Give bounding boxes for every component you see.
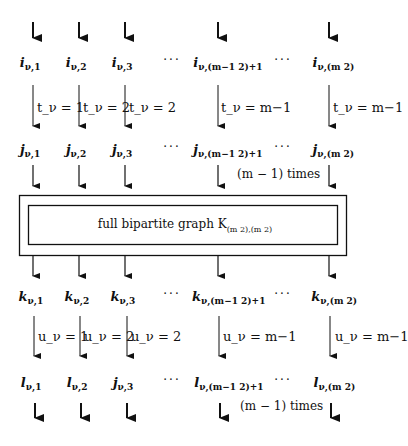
ellipsis: ··· bbox=[274, 141, 291, 153]
t-edge-label-3: t_ν = 2 bbox=[129, 101, 176, 114]
ellipsis: ··· bbox=[274, 54, 291, 66]
bipartite-box-label: full bipartite graph K(m 2),(m 2) bbox=[98, 218, 272, 234]
node-i-mid: iν,(m−1 2)+1 bbox=[193, 56, 262, 72]
node-j-last: jν,(m 2) bbox=[313, 143, 355, 159]
ellipsis: ··· bbox=[163, 54, 180, 66]
u-edge-label-mid: u_ν = m−1 bbox=[223, 330, 296, 343]
times-label-lower: (m − 1) times bbox=[240, 400, 323, 412]
ellipsis: ··· bbox=[163, 288, 180, 300]
u-edge-label-last: u_ν = m−1 bbox=[335, 330, 408, 343]
node-l-1: lν,1 bbox=[21, 376, 42, 392]
node-l-3: jν,3 bbox=[113, 376, 133, 392]
node-k-1: kν,1 bbox=[19, 290, 44, 306]
node-j-mid: jν,(m−1 2)+1 bbox=[193, 143, 262, 159]
ellipsis: ··· bbox=[274, 374, 291, 386]
node-j-2: jν,2 bbox=[66, 143, 86, 159]
u-edge-label-3: u_ν = 2 bbox=[131, 330, 181, 343]
top-arrows bbox=[33, 22, 329, 38]
ellipsis: ··· bbox=[163, 141, 180, 153]
t-edge-label-2: t_ν = 2 bbox=[83, 101, 130, 114]
node-l-mid: lν,(m−1 2)+1 bbox=[194, 376, 263, 392]
t-edge-label-last: t_ν = m−1 bbox=[333, 101, 403, 114]
node-k-mid: kν,(m−1 2)+1 bbox=[192, 290, 265, 306]
u-edge-label-2: u_ν = 2 bbox=[84, 330, 134, 343]
u-edge-label-1: u_ν = 1 bbox=[38, 330, 88, 343]
t-edge-label-mid: t_ν = m−1 bbox=[221, 101, 291, 114]
ellipsis: ··· bbox=[163, 374, 180, 386]
node-i-3: iν,3 bbox=[112, 56, 133, 72]
ellipsis: ··· bbox=[274, 288, 291, 300]
node-i-last: iν,(m 2) bbox=[312, 56, 354, 72]
node-l-2: lν,2 bbox=[67, 376, 88, 392]
node-k-2: kν,2 bbox=[65, 290, 90, 306]
times-label-upper: (m − 1) times bbox=[237, 168, 320, 180]
node-k-3: kν,3 bbox=[111, 290, 136, 306]
node-i-2: iν,2 bbox=[66, 56, 87, 72]
node-j-3: jν,3 bbox=[112, 143, 132, 159]
node-k-last: kν,(m 2) bbox=[311, 290, 357, 306]
t-edge-label-1: t_ν = 1 bbox=[37, 101, 84, 114]
out-of-box-arrows bbox=[33, 256, 329, 276]
node-j-1: jν,1 bbox=[20, 143, 40, 159]
node-l-last: lν,(m 2) bbox=[313, 376, 355, 392]
node-i-1: iν,1 bbox=[20, 56, 41, 72]
